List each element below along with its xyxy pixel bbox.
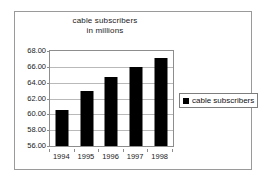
x-axis-tick-label-1995: 1995 (78, 152, 95, 161)
bar-1996 (105, 77, 118, 146)
bar-slot (99, 51, 124, 146)
x-axis-tick-mark (74, 149, 75, 152)
bar-slot (148, 51, 173, 146)
bar-series-cable-subscribers (50, 51, 173, 146)
y-axis-tick-label: 64.00 (27, 79, 46, 87)
bar-1995 (80, 91, 93, 146)
x-axis-tick-mark (49, 149, 50, 152)
x-axis-tick-labels: 19941995199619971998 (49, 149, 174, 163)
y-axis-tick-label: 58.00 (27, 126, 46, 134)
bar-slot (75, 51, 100, 146)
bar-slot (50, 51, 75, 146)
bar-slot (124, 51, 149, 146)
legend-item-label: cable subscribers (192, 96, 254, 105)
x-axis-tick-label-1997: 1997 (127, 152, 144, 161)
chart-title-line-1: cable subscribers (15, 16, 195, 26)
y-axis-tick-label: 56.00 (27, 142, 46, 150)
y-axis-tick-label: 62.00 (27, 95, 46, 103)
x-axis-tick-mark (147, 149, 148, 152)
x-axis-tick-mark (123, 149, 124, 152)
bar-1997 (130, 67, 143, 146)
chart-title: cable subscribers in millions (15, 16, 195, 36)
x-axis-tick-mark (98, 149, 99, 152)
black-square-icon (183, 98, 189, 104)
plot-area: 56.0058.0060.0062.0064.0066.0068.00 (49, 50, 174, 147)
y-axis-tick-label: 60.00 (27, 110, 46, 118)
y-axis-tick-label: 66.00 (27, 63, 46, 71)
bar-1994 (56, 110, 69, 146)
chart-legend: cable subscribers (179, 93, 258, 108)
chart-title-line-2: in millions (15, 26, 195, 36)
y-axis-tick-label: 68.00 (27, 47, 46, 55)
x-axis-tick-mark (172, 149, 173, 152)
y-axis-tick-mark (47, 146, 50, 147)
x-axis-tick-label-1996: 1996 (102, 152, 119, 161)
bar-1998 (154, 58, 167, 146)
chart-frame: cable subscribers in millions 56.0058.00… (14, 11, 252, 170)
x-axis-tick-label-1998: 1998 (151, 152, 168, 161)
x-axis-tick-label-1994: 1994 (53, 152, 70, 161)
